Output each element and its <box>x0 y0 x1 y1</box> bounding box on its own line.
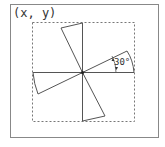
blade-left <box>33 73 83 95</box>
rotation-diagram: (x, y) 30° <box>0 0 165 147</box>
blade-top <box>61 23 83 73</box>
angle-label: 30° <box>114 57 130 67</box>
coordinate-label: (x, y) <box>13 6 56 20</box>
blade-bottom <box>83 73 106 122</box>
center-point <box>81 71 84 74</box>
